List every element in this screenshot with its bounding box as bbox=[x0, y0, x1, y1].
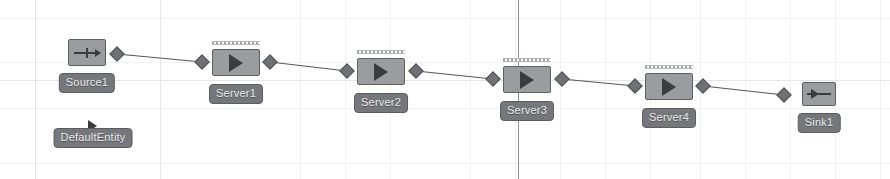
object-server1[interactable] bbox=[212, 49, 260, 76]
object-source1[interactable] bbox=[68, 39, 106, 66]
object-server3[interactable] bbox=[503, 66, 551, 93]
connector-link[interactable] bbox=[270, 62, 347, 71]
connector-link[interactable] bbox=[562, 79, 635, 86]
connector-link[interactable] bbox=[117, 54, 202, 62]
object-label-server2[interactable]: Server2 bbox=[354, 93, 408, 113]
object-server2[interactable] bbox=[357, 58, 405, 85]
sink-arrow-icon bbox=[807, 88, 831, 100]
server-input-queue bbox=[212, 41, 260, 45]
link-layer bbox=[0, 0, 890, 179]
object-label-server4[interactable]: Server4 bbox=[642, 108, 696, 128]
server-play-icon bbox=[520, 71, 534, 89]
connector-link[interactable] bbox=[703, 86, 784, 95]
server-play-icon bbox=[662, 78, 676, 96]
model-canvas[interactable]: Source1DefaultEntityServer1Server2Server… bbox=[0, 0, 890, 179]
object-label-defaultentity[interactable]: DefaultEntity bbox=[54, 128, 133, 148]
object-label-server1[interactable]: Server1 bbox=[209, 84, 263, 104]
connector-link[interactable] bbox=[416, 71, 493, 79]
server-input-queue bbox=[645, 65, 693, 69]
object-label-sink1[interactable]: Sink1 bbox=[798, 113, 841, 133]
server-play-icon bbox=[229, 54, 243, 72]
server-play-icon bbox=[374, 63, 388, 81]
server-input-queue bbox=[357, 50, 405, 54]
object-sink1[interactable] bbox=[802, 82, 836, 106]
source-arrow-icon bbox=[74, 48, 100, 58]
object-label-server3[interactable]: Server3 bbox=[500, 101, 554, 121]
object-label-source1[interactable]: Source1 bbox=[59, 73, 115, 93]
object-server4[interactable] bbox=[645, 73, 693, 100]
server-input-queue bbox=[503, 58, 551, 62]
